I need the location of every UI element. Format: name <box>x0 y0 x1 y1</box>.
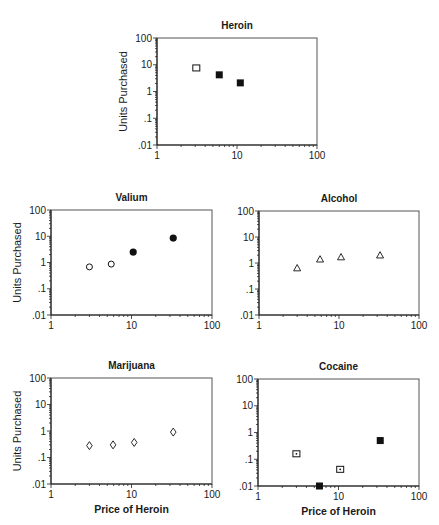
panel-title: Alcohol <box>321 193 358 204</box>
x-tick-label: 1 <box>255 491 261 502</box>
y-tick-label: .1 <box>38 452 47 463</box>
data-point-open-diamond <box>87 442 93 450</box>
y-tick-label: 10 <box>35 231 47 242</box>
data-point-open-square <box>193 65 200 71</box>
panel-title: Valium <box>115 192 147 203</box>
data-point-filled-square <box>237 79 244 86</box>
data-point-filled-square <box>377 437 384 444</box>
y-tick-label: 10 <box>242 400 254 411</box>
data-point-open-diamond <box>131 438 137 446</box>
y-tick-label: .1 <box>245 454 254 465</box>
y-tick-label: 100 <box>237 206 254 217</box>
data-point-open-circle <box>86 264 92 270</box>
y-tick-label: 10 <box>141 59 153 70</box>
panel-title: Cocaine <box>319 361 358 372</box>
data-point-open-triangle <box>377 252 384 258</box>
y-tick-label: 100 <box>135 33 152 44</box>
panel-cocaine: Cocaine.01.1110100110100Price of Heroin <box>236 361 427 517</box>
y-tick-label: .01 <box>32 310 46 321</box>
plot-frame <box>157 38 317 145</box>
x-tick-label: 10 <box>231 150 243 161</box>
plot-frame <box>259 211 419 315</box>
data-point-dotted-square <box>337 466 344 472</box>
x-tick-label: 10 <box>333 491 345 502</box>
y-tick-label: .1 <box>246 284 255 295</box>
data-point-filled-circle <box>170 235 177 242</box>
x-axis-label: Price of Heroin <box>94 503 169 515</box>
y-axis-label: Units Purchased <box>117 51 129 132</box>
y-tick-label: 1 <box>247 427 253 438</box>
x-tick-label: 100 <box>411 491 428 502</box>
data-point-open-diamond <box>110 441 116 449</box>
x-tick-label: 1 <box>256 320 262 331</box>
plot-frame <box>51 378 212 484</box>
data-point-open-triangle <box>338 254 345 260</box>
data-point-dotted-square <box>293 451 300 457</box>
data-point-open-diamond <box>170 428 176 436</box>
x-tick-label: 100 <box>204 320 221 331</box>
y-tick-label: .01 <box>32 479 46 490</box>
data-point-filled-square <box>316 483 323 490</box>
panel-heroin: Heroin.01.1110100110100Units Purchased <box>117 20 326 161</box>
y-tick-label: 100 <box>236 374 253 385</box>
panel-marijuana: Marijuana.01.1110100110100Units Purchase… <box>11 360 221 515</box>
panel-title: Heroin <box>221 20 253 31</box>
data-point-open-triangle <box>294 265 301 271</box>
x-tick-label: 1 <box>154 150 160 161</box>
data-point-open-triangle <box>317 256 324 262</box>
y-tick-label: .1 <box>38 283 47 294</box>
x-tick-label: 100 <box>309 150 326 161</box>
y-tick-label: 1 <box>40 257 46 268</box>
y-tick-label: 10 <box>35 399 47 410</box>
y-tick-label: .01 <box>240 310 254 321</box>
panel-title: Marijuana <box>108 360 155 371</box>
x-tick-label: 10 <box>333 320 345 331</box>
y-tick-label: 100 <box>29 205 46 216</box>
y-axis-label: Units Purchased <box>11 222 23 303</box>
y-tick-label: 1 <box>146 86 152 97</box>
y-axis-label: Units Purchased <box>11 391 23 472</box>
y-tick-label: 100 <box>29 373 46 384</box>
panel-valium: Valium.01.1110100110100Units Purchased <box>11 192 221 331</box>
x-tick-label: 10 <box>126 320 138 331</box>
y-tick-label: .01 <box>239 481 253 492</box>
x-axis-label: Price of Heroin <box>301 505 376 517</box>
plot-frame <box>51 210 212 315</box>
y-tick-label: 1 <box>248 258 254 269</box>
x-tick-label: 1 <box>48 320 54 331</box>
figure: Heroin.01.1110100110100Units Purchased V… <box>0 0 439 525</box>
y-tick-label: 10 <box>243 232 255 243</box>
x-tick-label: 10 <box>126 489 138 500</box>
y-tick-label: .1 <box>144 113 153 124</box>
data-point-open-circle <box>108 261 114 267</box>
panel-alcohol: Alcohol.01.1110100110100 <box>237 193 427 331</box>
y-tick-label: .01 <box>138 140 152 151</box>
x-tick-label: 100 <box>411 320 428 331</box>
x-tick-label: 1 <box>48 489 54 500</box>
y-tick-label: 1 <box>40 426 46 437</box>
x-tick-label: 100 <box>204 489 221 500</box>
data-point-filled-circle <box>130 248 137 255</box>
data-point-filled-square <box>216 71 223 78</box>
